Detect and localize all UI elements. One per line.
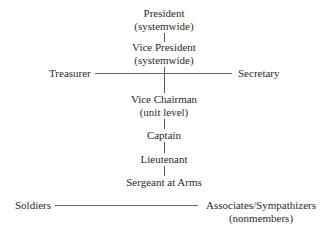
president-label: President <box>134 7 193 19</box>
vice-chairman-label: Vice Chairman <box>131 93 197 105</box>
node-associates: Associates/Sympathizers (nonmembers) <box>206 199 316 224</box>
node-secretary: Secretary <box>238 67 280 79</box>
vice-chairman-sublabel: (unit level) <box>131 106 197 118</box>
node-vice-president: Vice President (systemwide) <box>132 41 196 66</box>
connector-captain-lieutenant <box>164 142 165 153</box>
connector-vp-vice-chairman <box>164 67 165 93</box>
node-soldiers: Soldiers <box>15 199 51 211</box>
connector-treasurer-secretary <box>95 73 232 74</box>
org-chart-diagram: President (systemwide) Vice President (s… <box>0 0 333 230</box>
connector-lieutenant-sergeant <box>164 166 165 176</box>
vice-president-sublabel: (systemwide) <box>132 54 196 66</box>
node-treasurer: Treasurer <box>49 67 91 79</box>
node-vice-chairman: Vice Chairman (unit level) <box>131 93 197 118</box>
president-sublabel: (systemwide) <box>134 20 193 32</box>
connector-vice-chairman-captain <box>164 119 165 129</box>
associates-label: Associates/Sympathizers <box>206 199 316 211</box>
node-captain: Captain <box>147 129 181 141</box>
associates-sublabel: (nonmembers) <box>206 212 316 224</box>
vice-president-label: Vice President <box>132 41 196 53</box>
node-president: President (systemwide) <box>134 7 193 32</box>
connector-soldiers-associates <box>55 205 198 206</box>
node-lieutenant: Lieutenant <box>140 153 187 165</box>
node-sergeant-at-arms: Sergeant at Arms <box>126 176 202 188</box>
